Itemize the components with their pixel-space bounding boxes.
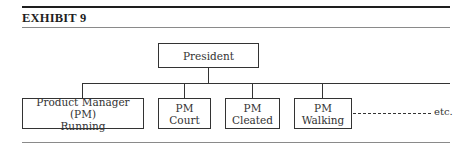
- bottom-rule: [22, 142, 450, 143]
- president-box: President: [158, 43, 259, 68]
- pm-cleated-line2: Cleated: [232, 114, 273, 126]
- president-label: President: [183, 50, 234, 62]
- title-underline: [22, 27, 450, 28]
- connector-court: [184, 83, 185, 98]
- pm-cleated-box: PM Cleated: [225, 98, 280, 129]
- pm-court-line1: PM: [176, 102, 194, 114]
- pm-cleated-line1: PM: [244, 102, 262, 114]
- pm-walking-line1: PM: [314, 102, 332, 114]
- pm-walking-box: PM Walking: [294, 98, 352, 129]
- pm-running-line1: Product Manager (PM): [23, 96, 143, 120]
- pm-court-box: PM Court: [158, 98, 211, 129]
- pm-walking-line2: Walking: [302, 114, 345, 126]
- continuation-label: etc.: [434, 106, 453, 117]
- pm-court-line2: Court: [169, 114, 199, 126]
- continuation-dashed-line: [353, 113, 431, 114]
- connector-cleated: [252, 83, 253, 98]
- connector-walking: [322, 83, 323, 98]
- president-stem-line: [208, 68, 209, 84]
- exhibit-title: EXHIBIT 9: [22, 11, 86, 26]
- top-rule: [22, 6, 450, 8]
- branch-line: [82, 83, 450, 84]
- pm-running-box: Product Manager (PM) Running: [22, 98, 144, 129]
- pm-running-line2: Running: [60, 120, 105, 132]
